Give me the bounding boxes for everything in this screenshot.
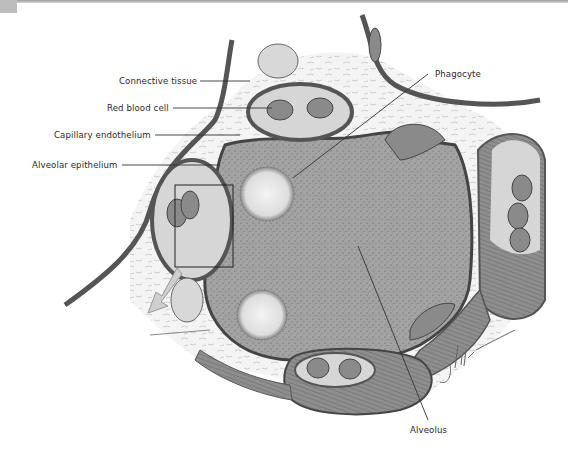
rbc-right-1 (512, 175, 532, 201)
connective-cell-left (171, 278, 203, 322)
label-red-blood-cell: Red blood cell (107, 103, 169, 113)
rbc-bottom-1 (307, 358, 329, 378)
connective-cell-top (258, 44, 298, 78)
endothelial-nucleus-top (369, 28, 381, 62)
label-alveolar-epithelium: Alveolar epithelium (32, 160, 118, 170)
rbc-right-2 (508, 203, 528, 229)
capillary-top (248, 84, 352, 140)
label-capillary-endothelium: Capillary endothelium (54, 130, 151, 140)
phagocyte-upper (240, 167, 294, 221)
rbc-right-3 (510, 228, 530, 252)
label-alveolus: Alveolus (410, 425, 447, 435)
label-connective-tissue: Connective tissue (119, 76, 197, 86)
phagocyte-lower (237, 290, 287, 340)
rbc-bottom-2 (339, 359, 361, 379)
rbc-top-2 (307, 98, 333, 118)
rbc-left-2 (181, 191, 199, 219)
alveolus-illustration (0, 0, 568, 456)
rbc-top-1 (267, 100, 293, 120)
capillary-left (152, 160, 232, 280)
label-phagocyte: Phagocyte (435, 69, 481, 79)
